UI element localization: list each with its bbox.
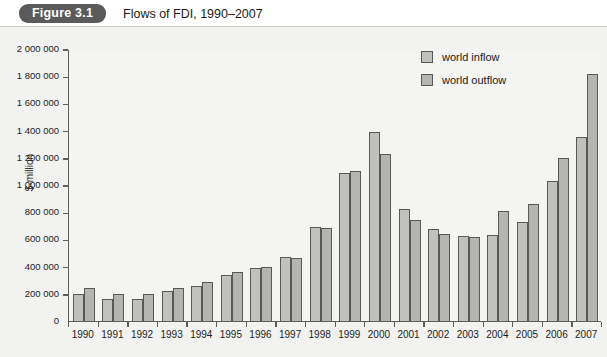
figure-title: Flows of FDI, 1990–2007 <box>123 7 263 21</box>
bar-world-outflow <box>528 204 539 321</box>
bar-world-outflow <box>232 272 243 321</box>
y-axis-tick-label: 2 000 000 <box>17 43 59 54</box>
x-axis-tick-mark <box>216 322 217 327</box>
x-axis-tick-label: 2005 <box>516 329 538 340</box>
x-axis-tick-mark <box>335 322 336 327</box>
x-axis-tick-label: 1990 <box>72 329 94 340</box>
bar-world-outflow <box>469 237 480 321</box>
x-axis-tick-label: 1998 <box>309 329 331 340</box>
bar-group <box>99 294 129 321</box>
bar-group <box>513 204 543 321</box>
bar-group <box>217 272 247 321</box>
bar-world-inflow <box>399 209 410 321</box>
bar-world-inflow <box>132 299 143 321</box>
x-axis-tick-mark <box>186 322 187 327</box>
bar-world-outflow <box>202 282 213 321</box>
figure-number-badge: Figure 3.1 <box>19 4 106 24</box>
bar-group <box>336 171 366 321</box>
y-axis-title: $-million <box>24 138 35 208</box>
bar-world-inflow <box>369 132 380 321</box>
bar-group <box>365 132 395 321</box>
bar-world-inflow <box>162 291 173 321</box>
bar-world-outflow <box>439 234 450 321</box>
x-axis-tick-mark <box>364 322 365 327</box>
legend-swatch-inflow <box>421 51 433 63</box>
bar-world-inflow <box>73 294 84 321</box>
bar-group <box>572 74 602 321</box>
x-axis-tick-mark <box>305 322 306 327</box>
x-axis-tick-mark <box>127 322 128 327</box>
legend-item-outflow: world outflow <box>421 74 506 86</box>
x-axis-tick-label: 2006 <box>545 329 567 340</box>
figure-header: Figure 3.1 Flows of FDI, 1990–2007 <box>0 0 607 27</box>
x-axis-tick-label: 1996 <box>249 329 271 340</box>
bar-world-outflow <box>587 74 598 321</box>
bar-world-inflow <box>576 137 587 321</box>
y-axis-tick-label: 800 000 <box>25 206 59 217</box>
figure-container: Figure 3.1 Flows of FDI, 1990–2007 $-mil… <box>0 0 607 357</box>
x-axis-tick-mark <box>246 322 247 327</box>
x-axis-tick-label: 2004 <box>486 329 508 340</box>
bar-world-outflow <box>261 267 272 321</box>
chart-legend: world inflow world outflow <box>421 51 506 97</box>
legend-label-outflow: world outflow <box>442 74 506 86</box>
bar-world-outflow <box>498 211 509 321</box>
bar-world-outflow <box>321 228 332 321</box>
y-axis-tick-label: 1 800 000 <box>17 70 59 81</box>
bar-world-inflow <box>310 227 321 321</box>
y-axis-tick-label: 1 400 000 <box>17 125 59 136</box>
x-axis-tick-mark <box>453 322 454 327</box>
bar-group <box>454 236 484 321</box>
x-axis-tick-mark <box>98 322 99 327</box>
x-axis-tick-label: 1995 <box>220 329 242 340</box>
legend-label-inflow: world inflow <box>442 51 499 63</box>
bar-world-outflow <box>113 294 124 321</box>
x-axis-tick-label: 1993 <box>161 329 183 340</box>
bar-world-inflow <box>458 236 469 321</box>
y-axis-tick-label: 1 600 000 <box>17 97 59 108</box>
x-axis-tick-label: 1999 <box>338 329 360 340</box>
y-axis-tick-label: 600 000 <box>25 233 59 244</box>
bar-world-outflow <box>350 171 361 321</box>
bar-world-inflow <box>221 275 232 321</box>
legend-swatch-outflow <box>421 74 433 86</box>
bar-group <box>128 294 158 321</box>
y-axis-tick-label: 1 000 000 <box>17 179 59 190</box>
x-axis-tick-mark <box>512 322 513 327</box>
bar-world-inflow <box>487 235 498 321</box>
bar-world-inflow <box>428 229 439 321</box>
x-axis-tick-label: 1997 <box>279 329 301 340</box>
bar-group <box>187 282 217 321</box>
bar-group <box>395 209 425 321</box>
chart-frame: $-million 0200 000400 000600 000800 0001… <box>0 27 607 357</box>
bar-world-outflow <box>143 294 154 321</box>
x-axis-tick-label: 1991 <box>101 329 123 340</box>
bar-world-outflow <box>410 220 421 321</box>
bar-group <box>543 158 573 321</box>
bar-group <box>276 257 306 321</box>
bar-world-inflow <box>547 181 558 321</box>
bar-group <box>69 288 99 321</box>
x-axis-tick-mark <box>571 322 572 327</box>
x-axis-tick-label: 2002 <box>427 329 449 340</box>
bar-group <box>247 267 277 321</box>
x-axis-tick-mark <box>601 322 602 327</box>
bar-group <box>306 227 336 321</box>
bar-world-inflow <box>102 299 113 321</box>
plot-area <box>68 50 601 322</box>
x-axis-tick-mark <box>394 322 395 327</box>
bar-world-outflow <box>173 288 184 321</box>
y-axis-tick-label: 0 <box>54 315 59 326</box>
x-axis-tick-mark <box>483 322 484 327</box>
x-axis-tick-label: 1992 <box>131 329 153 340</box>
x-axis-tick-label: 2003 <box>457 329 479 340</box>
x-axis-tick-label: 2001 <box>397 329 419 340</box>
legend-item-inflow: world inflow <box>421 51 506 63</box>
bar-world-outflow <box>380 154 391 321</box>
bar-world-inflow <box>280 257 291 321</box>
x-axis-tick-mark <box>542 322 543 327</box>
bar-world-outflow <box>558 158 569 321</box>
y-axis-tick-label: 1 200 000 <box>17 152 59 163</box>
x-axis-tick-mark <box>423 322 424 327</box>
x-axis-tick-label: 2000 <box>368 329 390 340</box>
